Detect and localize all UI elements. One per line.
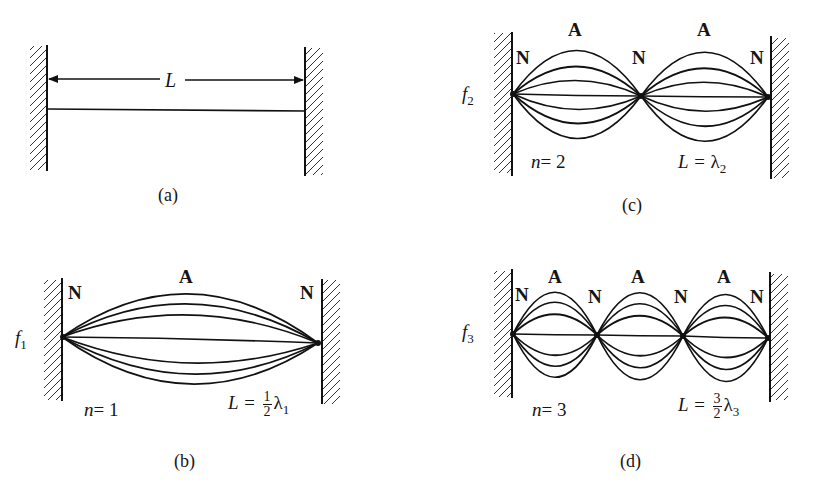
node-dot <box>638 93 644 99</box>
fraction-denominator: 2 <box>713 407 722 421</box>
node-label-2: N <box>588 287 602 306</box>
right-wall-hatch <box>771 38 789 178</box>
n-value: = 2 <box>541 151 566 172</box>
string <box>47 109 305 111</box>
right-wall-hatch <box>770 274 788 400</box>
caption-c: (c) <box>622 196 642 214</box>
mode-number: n= 3 <box>532 400 566 419</box>
caption-a: (a) <box>158 186 178 204</box>
fraction-numerator: 1 <box>263 390 272 405</box>
n-symbol: n <box>531 151 541 172</box>
fraction-denominator: 2 <box>263 405 272 419</box>
node-label-4: N <box>750 287 764 306</box>
wave-envelopes <box>62 294 318 384</box>
node-label-3: N <box>674 287 688 306</box>
fraction-numerator: 3 <box>713 392 722 407</box>
node-dot <box>315 340 321 346</box>
node-label-left: N <box>68 283 82 302</box>
n-value: = 1 <box>94 399 119 420</box>
node-dot <box>60 334 66 340</box>
node-dot <box>510 331 516 337</box>
node-label-right: N <box>750 48 764 67</box>
eq-lhs: L = <box>228 392 256 413</box>
panel-a <box>30 45 323 176</box>
right-wall-hatch <box>322 280 340 404</box>
antinode-label-3: A <box>717 267 731 286</box>
panel-b <box>44 278 340 404</box>
caption-d: (d) <box>620 452 641 470</box>
eq-lhs: L = <box>678 151 706 172</box>
node-dot <box>765 94 771 100</box>
frequency-label: f3 <box>462 322 474 345</box>
lambda-subscript: 1 <box>283 402 290 417</box>
n-symbol: n <box>84 399 94 420</box>
node-label-left: N <box>516 48 530 67</box>
frequency-label: f1 <box>15 328 27 351</box>
wave-envelopes <box>513 292 768 381</box>
length-equation: L = 12λ1 <box>228 390 289 419</box>
caption-b: (b) <box>174 452 195 470</box>
frequency-subscript: 2 <box>467 93 474 108</box>
lambda-subscript: 3 <box>733 404 740 419</box>
n-symbol: n <box>532 399 542 420</box>
antinode-label: A <box>179 267 193 286</box>
frequency-subscript: 1 <box>20 337 27 352</box>
lambda-symbol: λ <box>711 151 720 172</box>
fraction: 12 <box>263 390 272 419</box>
antinode-label-2: A <box>631 267 645 286</box>
mode-number: n= 1 <box>84 400 118 419</box>
node-label-middle: N <box>632 48 646 67</box>
left-wall-hatch <box>494 33 512 173</box>
mode-number: n= 2 <box>531 152 565 171</box>
node-label-right: N <box>300 283 314 302</box>
left-wall-hatch <box>30 46 47 170</box>
node-dot <box>510 91 516 97</box>
node-label-1: N <box>515 285 529 304</box>
node-dot <box>765 335 771 341</box>
panel-d <box>494 269 788 402</box>
lambda-symbol: λ <box>274 392 283 413</box>
length-label: L <box>165 70 176 90</box>
n-value: = 3 <box>542 399 567 420</box>
antinode-label-2: A <box>697 20 711 39</box>
eq-lhs: L = <box>678 394 706 415</box>
antinode-label-1: A <box>568 20 582 39</box>
left-wall-hatch <box>44 280 62 400</box>
fraction: 32 <box>713 392 722 421</box>
node-dot <box>680 333 686 339</box>
frequency-subscript: 3 <box>467 331 474 346</box>
right-wall-hatch <box>305 48 323 175</box>
lambda-symbol: λ <box>724 394 733 415</box>
antinode-label-1: A <box>548 267 562 286</box>
node-dot <box>594 332 600 338</box>
frequency-label: f2 <box>462 84 474 107</box>
lambda-subscript: 2 <box>720 161 727 176</box>
length-equation: L = λ2 <box>678 152 726 175</box>
length-equation: L = 32λ3 <box>678 392 739 421</box>
left-wall-hatch <box>494 271 512 397</box>
